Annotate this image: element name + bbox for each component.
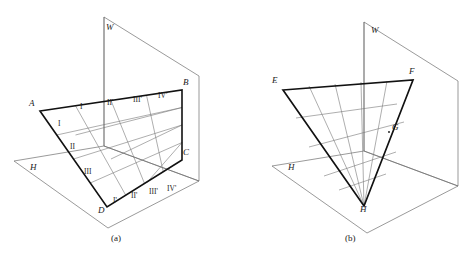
- edge-label-left-2: II: [70, 143, 75, 151]
- vertex-label-a: A: [29, 99, 35, 108]
- edge-label-left-3: III: [84, 168, 92, 176]
- edge-label-bottom-2: II': [131, 192, 137, 200]
- panel-a-w-plane: [104, 17, 204, 184]
- edge-label-bottom-1: I': [113, 197, 117, 205]
- vertex-label-f: F: [409, 67, 415, 76]
- panel-a-grid: [57, 95, 182, 195]
- figure-root: A B C D W H I II III I II' III' IV' I' I…: [0, 0, 463, 258]
- vertex-label-b: B: [183, 78, 189, 87]
- edge-label-top-2: II': [107, 99, 113, 107]
- point-label-g: G: [392, 123, 399, 132]
- vertex-label-e: E: [272, 76, 278, 85]
- edge-label-bottom-3: III': [149, 188, 158, 196]
- vertex-label-c: C: [183, 148, 189, 157]
- panel-a-group: [14, 17, 204, 228]
- panel-b-w-plane-outline: [364, 22, 458, 186]
- plane-label-h-a: H: [30, 163, 37, 172]
- plane-label-h-b: H: [288, 163, 295, 172]
- edge-label-top-3: III': [133, 96, 142, 104]
- edge-label-bottom-4: IV': [167, 185, 176, 193]
- edge-label-top-1: I: [80, 103, 83, 111]
- plane-label-w-b: W: [371, 26, 379, 35]
- plane-label-w-a: W: [106, 23, 114, 32]
- vertex-label-h-apex: H: [360, 205, 367, 214]
- caption-a: (a): [111, 234, 121, 243]
- edge-label-left-1: I: [58, 120, 61, 128]
- caption-b: (b): [345, 234, 356, 243]
- panel-b-h-plane-outline: [272, 151, 458, 233]
- panel-b-group: [272, 22, 458, 233]
- edge-label-top-4: IV': [158, 92, 167, 100]
- vertex-label-d: D: [98, 206, 105, 215]
- panel-b-point-g: [388, 131, 390, 133]
